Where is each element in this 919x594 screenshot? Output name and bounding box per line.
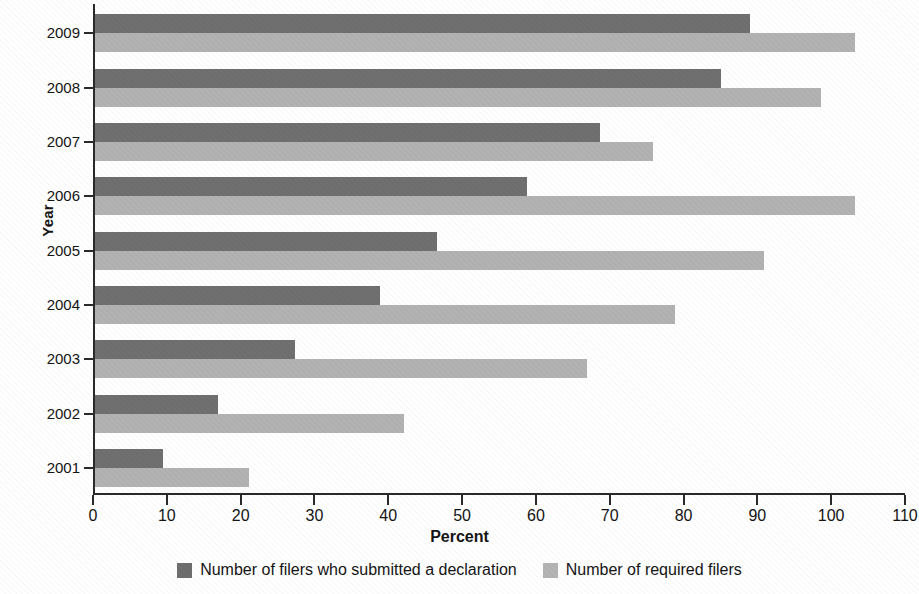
bar	[95, 196, 855, 215]
legend-item: Number of filers who submitted a declara…	[177, 561, 517, 579]
legend-swatch-icon	[177, 563, 192, 578]
y-tick-mark	[84, 195, 93, 197]
bar	[95, 468, 249, 487]
x-tick-mark	[904, 495, 906, 505]
bar	[95, 177, 527, 196]
x-tick-label: 60	[527, 507, 545, 525]
y-tick-label: 2007	[24, 133, 80, 150]
bar	[95, 251, 764, 270]
y-tick-mark	[84, 141, 93, 143]
x-tick-mark	[830, 495, 832, 505]
y-tick-label: 2008	[24, 79, 80, 96]
x-tick-label: 10	[158, 507, 176, 525]
y-tick-mark	[84, 32, 93, 34]
bar	[95, 414, 404, 433]
x-tick-mark	[387, 495, 389, 505]
x-tick-label: 0	[89, 507, 98, 525]
x-tick-label: 90	[748, 507, 766, 525]
bar	[95, 123, 600, 142]
x-tick-label: 40	[379, 507, 397, 525]
x-axis-title: Percent	[0, 528, 919, 546]
y-tick-label: 2005	[24, 242, 80, 259]
bar	[95, 449, 163, 468]
x-tick-mark	[683, 495, 685, 505]
y-tick-label: 2009	[24, 24, 80, 41]
bar	[95, 69, 721, 88]
x-tick-label: 20	[232, 507, 250, 525]
bar	[95, 305, 675, 324]
bar-group	[95, 232, 907, 270]
bar-group	[95, 123, 907, 161]
y-tick-label: 2004	[24, 296, 80, 313]
y-tick-label: 2006	[24, 187, 80, 204]
bar	[95, 142, 653, 161]
bar-group	[95, 395, 907, 433]
x-tick-mark	[240, 495, 242, 505]
x-tick-mark	[756, 495, 758, 505]
y-tick-mark	[84, 250, 93, 252]
bar	[95, 286, 380, 305]
bar-group	[95, 177, 907, 215]
x-tick-mark	[313, 495, 315, 505]
x-tick-mark	[461, 495, 463, 505]
bar-group	[95, 286, 907, 324]
x-tick-label: 50	[453, 507, 471, 525]
bar-group	[95, 449, 907, 487]
y-tick-mark	[84, 467, 93, 469]
x-tick-mark	[609, 495, 611, 505]
bar	[95, 359, 587, 378]
bar	[95, 88, 821, 107]
x-tick-label: 100	[818, 507, 845, 525]
y-tick-mark	[84, 304, 93, 306]
bar	[95, 232, 437, 251]
y-tick-mark	[84, 358, 93, 360]
y-tick-label: 2003	[24, 350, 80, 367]
x-tick-label: 110	[892, 507, 918, 525]
x-tick-label: 80	[675, 507, 693, 525]
bar	[95, 33, 855, 52]
plot-area: 0102030405060708090100110	[93, 4, 905, 493]
chart-legend: Number of filers who submitted a declara…	[0, 561, 919, 579]
bar	[95, 395, 218, 414]
x-tick-mark	[166, 495, 168, 505]
legend-label: Number of filers who submitted a declara…	[200, 561, 517, 579]
bar-group	[95, 14, 907, 52]
legend-item: Number of required filers	[543, 561, 742, 579]
y-tick-label: 2001	[24, 459, 80, 476]
x-tick-mark	[535, 495, 537, 505]
y-tick-label: 2002	[24, 405, 80, 422]
bar	[95, 340, 295, 359]
x-tick-label: 30	[306, 507, 324, 525]
legend-label: Number of required filers	[566, 561, 742, 579]
bar-chart: Year 0102030405060708090100110 200920082…	[0, 0, 919, 594]
bar-group	[95, 69, 907, 107]
legend-swatch-icon	[543, 563, 558, 578]
x-tick-mark	[92, 495, 94, 505]
x-tick-label: 70	[601, 507, 619, 525]
y-tick-mark	[84, 87, 93, 89]
bar-group	[95, 340, 907, 378]
bar	[95, 14, 750, 33]
y-tick-mark	[84, 413, 93, 415]
x-axis-line	[93, 493, 905, 495]
